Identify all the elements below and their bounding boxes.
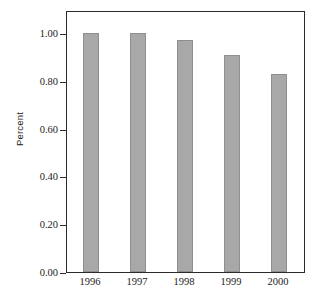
y-axis-tick xyxy=(60,273,66,274)
y-axis-tick xyxy=(60,34,66,35)
bar xyxy=(224,55,240,272)
x-axis-tick-label: 1996 xyxy=(68,277,112,288)
y-axis-tick-label: 0.40 xyxy=(24,172,58,183)
y-axis-tick-labels: 0.000.200.400.600.801.00 xyxy=(20,0,58,303)
bar xyxy=(83,33,99,272)
y-axis-tick-label: 0.00 xyxy=(24,268,58,279)
bar-chart-figure: Percent 0.000.200.400.600.801.00 1996199… xyxy=(0,0,319,303)
y-axis-tick-label: 1.00 xyxy=(24,29,58,40)
bar xyxy=(271,74,287,272)
x-axis-tick-labels: 19961997199819992000 xyxy=(66,277,305,293)
x-axis-tick-label: 1999 xyxy=(209,277,253,288)
y-axis-tick xyxy=(60,177,66,178)
bar xyxy=(177,40,193,272)
x-axis-tick-label: 1998 xyxy=(162,277,206,288)
y-axis-tick-label: 0.20 xyxy=(24,220,58,231)
x-axis-tick-label: 1997 xyxy=(115,277,159,288)
bar-series xyxy=(67,12,304,272)
y-axis-tick-label: 0.60 xyxy=(24,125,58,136)
y-axis-tick-label: 0.80 xyxy=(24,77,58,88)
bar xyxy=(130,33,146,272)
x-axis-tick-label: 2000 xyxy=(256,277,300,288)
plot-area xyxy=(66,11,305,273)
y-axis-tick xyxy=(60,130,66,131)
y-axis-tick xyxy=(60,82,66,83)
y-axis-tick xyxy=(60,225,66,226)
